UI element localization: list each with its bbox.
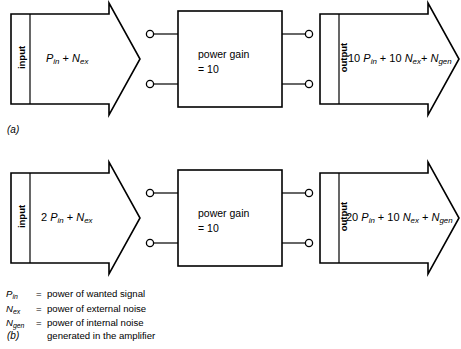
amp-input-terminal-bottom-b xyxy=(146,239,153,246)
output-expression-a: 10 Pin + 10 Nex+ Ngen xyxy=(348,52,452,66)
legend-definition: power of wanted signal xyxy=(47,288,246,300)
legend-symbol: Pin xyxy=(6,288,36,303)
legend-equals: = xyxy=(36,317,47,329)
legend-symbol: Nex xyxy=(6,303,36,318)
amp-output-terminal-bottom-a xyxy=(305,80,312,87)
input-expression-a: Pin + Nex xyxy=(46,52,88,66)
amp-output-terminal-top-b xyxy=(305,189,312,196)
output-expression-b: 20 Pin + 10 Nex + Ngen xyxy=(346,211,453,225)
amp-output-terminal-top-a xyxy=(305,30,312,37)
amplifier-label-a: power gain= 10 xyxy=(198,47,249,77)
input-label-a: input xyxy=(16,25,27,91)
legend-definition: power of external noise xyxy=(47,303,246,315)
legend-row: Pin = power of wanted signal xyxy=(6,288,246,303)
input-label-b: input xyxy=(16,184,27,250)
amplifier-line1-b: power gain xyxy=(198,207,249,219)
amplifier-line2-a: = 10 xyxy=(198,63,219,75)
amplifier-label-b: power gain= 10 xyxy=(198,206,249,236)
legend-row: Ngen = power of internal noise generated… xyxy=(6,317,246,341)
legend-definition: power of internal noise generated in the… xyxy=(47,317,246,341)
legend-row: Nex = power of external noise xyxy=(6,303,246,318)
legend: Pin = power of wanted signal Nex = power… xyxy=(6,288,246,342)
amp-output-terminal-bottom-b xyxy=(305,239,312,246)
amplifier-line2-b: = 10 xyxy=(198,222,219,234)
panel-tag-a: (a) xyxy=(7,124,19,135)
input-expression-b: 2 Pin + Nex xyxy=(41,211,93,225)
output-label-a: output xyxy=(338,25,349,91)
amp-input-terminal-bottom-a xyxy=(146,80,153,87)
amp-input-terminal-top-a xyxy=(146,30,153,37)
legend-equals: = xyxy=(36,288,47,300)
legend-equals: = xyxy=(36,303,47,315)
amplifier-line1-a: power gain xyxy=(198,48,249,60)
diagram-stage: input Pin + Nex power gain= 10 output 10… xyxy=(0,0,461,349)
panel-tag-b: (b) xyxy=(7,330,19,341)
amp-input-terminal-top-b xyxy=(146,189,153,196)
figure-page: input Pin + Nex power gain= 10 output 10… xyxy=(0,0,461,349)
